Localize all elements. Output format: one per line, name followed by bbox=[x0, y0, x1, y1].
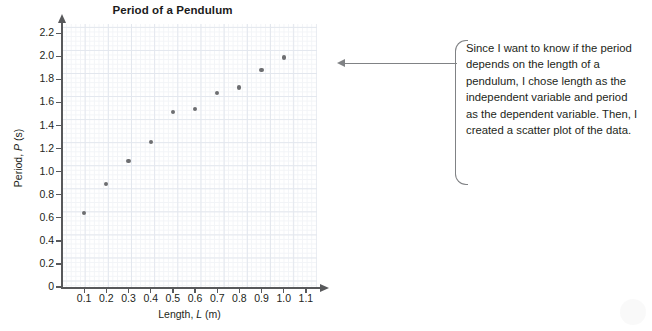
callout-arrow bbox=[337, 58, 457, 69]
y-tick-label: 1.0 bbox=[20, 165, 54, 177]
y-tick bbox=[56, 217, 62, 218]
scatter-plot-figure: Period of a Pendulum 00.20.40.60.81.01.2… bbox=[0, 0, 345, 331]
y-tick bbox=[56, 102, 62, 103]
y-axis-arrowhead-icon bbox=[58, 14, 66, 23]
data-point bbox=[171, 110, 175, 114]
x-axis-arrowhead-icon bbox=[320, 284, 329, 292]
y-tick-label: 2.0 bbox=[20, 49, 54, 61]
data-point bbox=[259, 68, 263, 72]
y-tick-label: 1.8 bbox=[20, 72, 54, 84]
y-tick-label: 1.2 bbox=[20, 142, 54, 154]
x-tick-label: 1.1 bbox=[293, 292, 319, 304]
y-tick bbox=[56, 171, 62, 172]
y-tick-label: 0.6 bbox=[20, 211, 54, 223]
annotation-text: Since I want to know if the period depen… bbox=[466, 40, 642, 139]
y-axis-title: Period, P (s) bbox=[12, 98, 24, 218]
y-tick bbox=[56, 240, 62, 241]
x-axis-line bbox=[61, 287, 321, 289]
y-axis-line bbox=[61, 22, 63, 289]
y-tick bbox=[56, 125, 62, 126]
y-tick-label: 2.2 bbox=[20, 26, 54, 38]
y-tick bbox=[56, 286, 62, 287]
page-corner-artifact bbox=[620, 299, 646, 325]
data-point bbox=[282, 55, 286, 59]
y-tick bbox=[56, 148, 62, 149]
y-tick-label: 0.2 bbox=[20, 257, 54, 269]
plot-area-grid bbox=[62, 24, 317, 287]
worksheet-page: Period of a Pendulum 00.20.40.60.81.01.2… bbox=[0, 0, 652, 331]
y-tick bbox=[56, 194, 62, 195]
y-tick-label: 1.4 bbox=[20, 119, 54, 131]
y-tick bbox=[56, 56, 62, 57]
y-tick bbox=[56, 33, 62, 34]
y-tick-label: 0.4 bbox=[20, 234, 54, 246]
y-tick-label: 0 bbox=[20, 280, 54, 292]
y-tick bbox=[56, 263, 62, 264]
y-tick-label: 0.8 bbox=[20, 188, 54, 200]
x-axis-title: Length, L (m) bbox=[62, 308, 317, 320]
y-tick-label: 1.6 bbox=[20, 95, 54, 107]
callout-arrowhead-icon bbox=[337, 59, 345, 67]
data-point bbox=[126, 159, 130, 163]
callout-arrow-line bbox=[345, 63, 457, 64]
data-point bbox=[149, 140, 153, 144]
y-tick bbox=[56, 79, 62, 80]
